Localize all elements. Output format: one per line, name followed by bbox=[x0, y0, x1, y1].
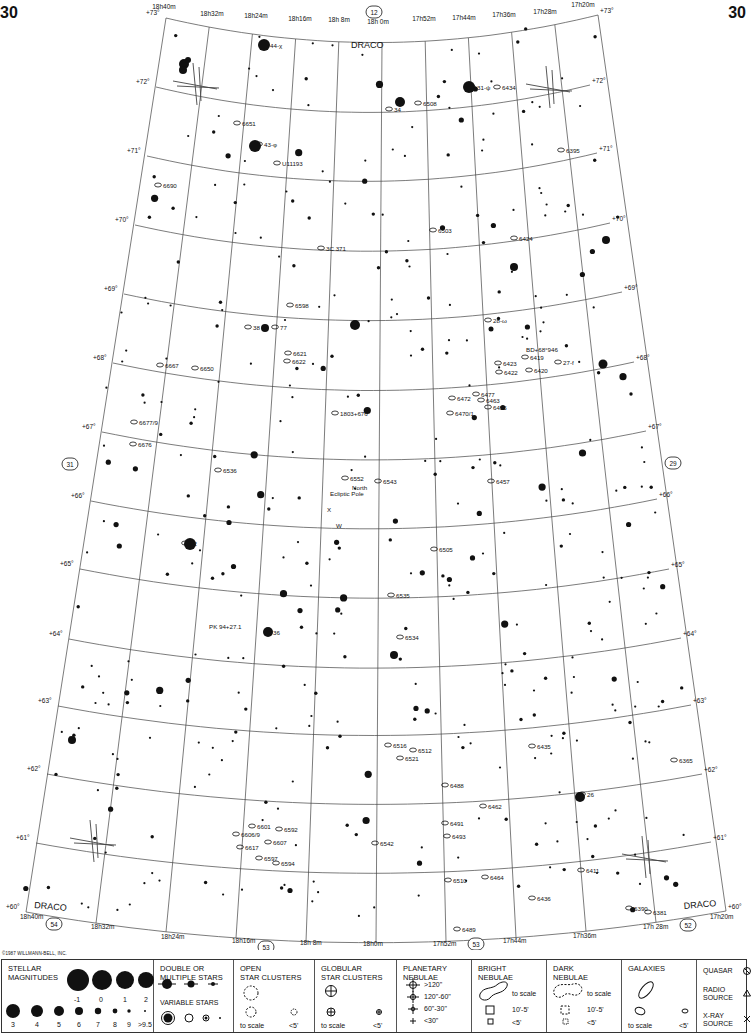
chart-label: 6676 bbox=[138, 441, 152, 448]
chart-label: +67° bbox=[648, 423, 662, 430]
chart-label: +73° bbox=[600, 7, 614, 14]
size-label: 120"-60" bbox=[424, 993, 451, 1001]
chart-label: 6601 bbox=[257, 823, 271, 830]
double-star-symbols bbox=[154, 960, 234, 1032]
chart-label: 28-ω bbox=[493, 317, 507, 324]
to-scale-label: to scale bbox=[512, 990, 536, 998]
chart-label: 6667 bbox=[165, 362, 179, 369]
chart-label: 6536 bbox=[223, 467, 237, 474]
chart-label: 1803+676 bbox=[340, 410, 368, 417]
chart-label: 6436 bbox=[537, 895, 551, 902]
chart-label: 18h 8m bbox=[328, 16, 350, 23]
mid-size-label: 10'-5' bbox=[512, 1006, 529, 1014]
chart-label: +69° bbox=[104, 285, 118, 292]
to-scale-label: to scale bbox=[628, 1022, 652, 1030]
chart-label: +68° bbox=[93, 354, 107, 361]
chart-label: 6607 bbox=[273, 839, 287, 846]
mag-label: -1 bbox=[74, 996, 80, 1004]
chart-label: W bbox=[336, 522, 342, 529]
chart-label: 6621 bbox=[293, 350, 307, 357]
chart-label: 6493 bbox=[452, 833, 466, 840]
legend-dark-nebulae: DARK NEBULAE to scale 10'-5' <5' bbox=[547, 960, 622, 1032]
chart-label: Ecliptic Pole bbox=[330, 490, 364, 497]
chart-label: 12 bbox=[370, 9, 378, 16]
xray-source-label: X-RAY SOURCE bbox=[703, 1012, 733, 1028]
chart-label: +71° bbox=[599, 145, 613, 152]
chart-label: 17h20m bbox=[571, 1, 595, 8]
legend-globular-clusters: GLOBULAR STAR CLUSTERS to scale <5' bbox=[315, 960, 397, 1032]
chart-label: 6463 bbox=[486, 397, 500, 404]
chart-label: 29 bbox=[669, 460, 677, 467]
chart-label: 17h44m bbox=[452, 14, 476, 21]
chart-label: 6552 bbox=[350, 475, 364, 482]
chart-label: 18h16m bbox=[232, 937, 256, 944]
mag-label: 5 bbox=[57, 1021, 61, 1029]
chart-label: 31 bbox=[66, 461, 74, 468]
chart-label: +70° bbox=[115, 216, 129, 223]
mag-label: 9 bbox=[127, 1021, 131, 1029]
chart-label: 6535 bbox=[396, 592, 410, 599]
to-scale-label: to scale bbox=[321, 1022, 345, 1030]
chart-label: 6464 bbox=[490, 874, 504, 881]
chart-label: 6677/9 bbox=[139, 419, 158, 426]
deep-sky-objects bbox=[130, 43, 678, 931]
chart-label: 6543 bbox=[383, 478, 397, 485]
chart-label: 6617 bbox=[245, 844, 259, 851]
chart-label: 26 bbox=[587, 791, 594, 798]
legend-stellar-magnitudes: STELLAR MAGNITUDES -1 0 1 2 3 4 5 6 7 8 … bbox=[2, 960, 154, 1032]
chart-label: +72° bbox=[592, 77, 606, 84]
chart-label: +60° bbox=[6, 903, 20, 910]
chart-label: 44-χ bbox=[270, 42, 283, 49]
chart-label: 6594 bbox=[281, 860, 295, 867]
mag-label: 8 bbox=[113, 1021, 117, 1029]
chart-label: +68° bbox=[636, 354, 650, 361]
chart-label: +65° bbox=[671, 561, 685, 568]
chart-label: 6455 bbox=[493, 404, 507, 411]
chart-label: 53 bbox=[262, 944, 270, 950]
chart-label: +61° bbox=[16, 834, 30, 841]
chart-label: 6411 bbox=[586, 867, 600, 874]
mid-size-label: 10'-5' bbox=[587, 1006, 604, 1014]
mag-label: 2 bbox=[144, 996, 148, 1004]
mag-label: 0 bbox=[99, 996, 103, 1004]
chart-label: +64° bbox=[683, 630, 697, 637]
chart-label: 6435 bbox=[537, 743, 551, 750]
chart-label: 17h20m bbox=[710, 913, 734, 920]
chart-label: 6395 bbox=[566, 147, 580, 154]
legend-galaxies: GALAXIES to scale <5' bbox=[622, 960, 697, 1032]
chart-label: +65° bbox=[60, 560, 74, 567]
chart-label: 6489 bbox=[462, 926, 476, 933]
chart-label: 6505 bbox=[439, 546, 453, 553]
chart-label: +63° bbox=[693, 697, 707, 704]
chart-label: 6424 bbox=[519, 235, 533, 242]
chart-label: 38 bbox=[253, 324, 260, 331]
mag-label: >9.5 bbox=[138, 1021, 152, 1029]
small-label: <5' bbox=[587, 1019, 596, 1027]
chart-label: 6491 bbox=[450, 820, 464, 827]
mag-label: 3 bbox=[11, 1021, 15, 1029]
chart-label: 54 bbox=[50, 921, 58, 928]
chart-label: 18h 0m bbox=[367, 18, 389, 25]
chart-label: 31-ψ bbox=[477, 84, 490, 91]
chart-label: 77 bbox=[280, 324, 287, 331]
chart-label: 17h52m bbox=[412, 15, 436, 22]
chart-label: 6462 bbox=[488, 803, 502, 810]
chart-label: 6690 bbox=[163, 182, 177, 189]
legend-bright-nebulae: BRIGHT NEBULAE to scale 10'-5' <5' bbox=[472, 960, 547, 1032]
chart-label: 6622 bbox=[292, 358, 306, 365]
chart-labels: 18h40m18h32m18h24m18h16m18h 8m18h 0m17h5… bbox=[6, 1, 742, 950]
copyright-notice: ©1987 WILLMANN-BELL, INC. bbox=[2, 951, 67, 956]
variable-stars-title: VARIABLE STARS bbox=[160, 999, 218, 1007]
chart-label: DRACO bbox=[351, 40, 384, 50]
chart-label: +70° bbox=[612, 215, 626, 222]
chart-label: BD+68°946 bbox=[526, 346, 558, 353]
chart-label: 17h 28m bbox=[643, 923, 668, 930]
chart-label: 42 bbox=[190, 540, 197, 547]
size-label: <30" bbox=[424, 1017, 438, 1025]
chart-label: 6420 bbox=[534, 367, 548, 374]
mag-label: 7 bbox=[96, 1021, 100, 1029]
chart-label: +62° bbox=[27, 765, 41, 772]
chart-label: 6512 bbox=[418, 747, 432, 754]
chart-label: 6419 bbox=[530, 354, 544, 361]
chart-label: 18h32m bbox=[91, 923, 115, 930]
